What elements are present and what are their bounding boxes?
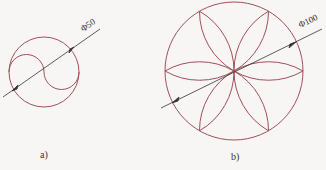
figure-b bbox=[165, 2, 303, 140]
s-curve bbox=[9, 55, 79, 90]
figure-a bbox=[9, 37, 79, 107]
diagram-canvas bbox=[0, 0, 326, 170]
caption-a: a) bbox=[40, 149, 48, 160]
caption-b: b) bbox=[231, 151, 239, 162]
rosette-petals bbox=[165, 11, 303, 131]
